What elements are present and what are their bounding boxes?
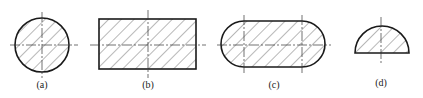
cross-section-figure: (a) (b) (c) (d)	[0, 0, 423, 98]
panel-c-slot-section: (c)	[215, 15, 335, 91]
panel-a-circle-section: (a)	[10, 12, 80, 91]
panel-label-d: (d)	[375, 77, 387, 89]
panel-label-a: (a)	[36, 79, 47, 91]
hatch-fill	[99, 19, 196, 69]
panel-label-b: (b)	[142, 79, 154, 91]
panel-label-c: (c)	[268, 79, 279, 91]
panel-d-semicircle-section: (d)	[350, 17, 415, 89]
panel-b-rectangle-section: (b)	[90, 10, 206, 91]
